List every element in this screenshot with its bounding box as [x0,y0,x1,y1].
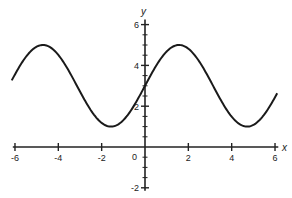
x-tick-label: 2 [186,153,191,163]
origin-label: 0 [132,152,137,162]
x-tick-label: -6 [11,153,19,163]
sine-chart: -6-4-2246-2246 x y 0 [0,0,292,198]
y-axis-label: y [140,6,147,17]
y-tick-label: -2 [131,183,139,193]
x-tick-label: 6 [273,153,278,163]
y-tick-label: 4 [134,61,139,71]
x-tick-label: 4 [229,153,234,163]
x-axis-label: x [281,142,288,153]
y-tick-label: 6 [134,20,139,30]
x-tick-label: -2 [98,153,106,163]
x-tick-label: -4 [54,153,62,163]
